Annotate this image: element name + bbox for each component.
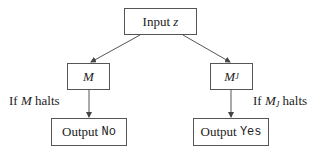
input-node-label: Input — [143, 14, 170, 30]
input-node-var: z — [173, 14, 178, 30]
output-no-prefix: Output — [62, 124, 98, 140]
output-yes-prefix: Output — [201, 124, 237, 140]
output-yes-node: Output Yes — [193, 118, 269, 146]
edge-label-if-m-halts: If M halts — [9, 93, 60, 109]
edge-label-right-var: M — [265, 93, 276, 108]
output-yes-value: Yes — [240, 125, 262, 139]
edge-label-right-pre: If — [253, 93, 262, 108]
edge-label-left-pre: If — [9, 93, 18, 108]
edge-label-right-subscript: J — [276, 100, 280, 109]
machine-mj-node: MJ — [210, 63, 253, 90]
machine-m-label: M — [83, 69, 94, 85]
output-no-node: Output No — [51, 118, 127, 146]
output-no-value: No — [101, 125, 115, 139]
machine-mj-label: M — [224, 69, 235, 85]
machine-m-node: M — [67, 63, 110, 90]
edge-label-left-post: halts — [35, 93, 60, 108]
machine-mj-subscript: J — [235, 72, 239, 81]
edge-input-to-mj — [183, 35, 230, 62]
edge-input-to-m — [91, 35, 140, 62]
edge-label-left-var: M — [21, 93, 32, 108]
edge-label-if-mj-halts: If MJ halts — [253, 93, 307, 109]
edge-label-right-post: halts — [283, 93, 308, 108]
input-node: Input z — [124, 8, 197, 35]
